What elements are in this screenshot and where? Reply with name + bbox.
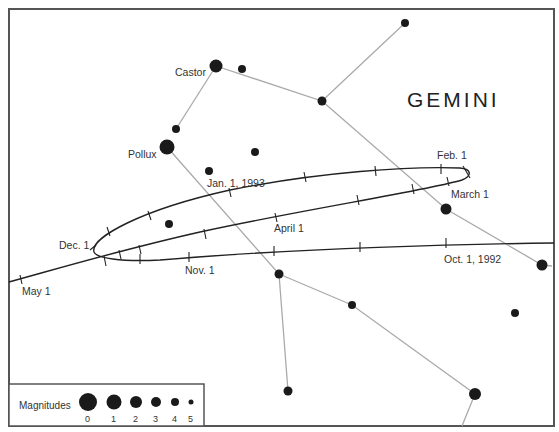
- star: [251, 148, 259, 156]
- star: [275, 270, 284, 279]
- magnitude-legend: Magnitudes 0 1 2 3 4 5: [9, 384, 204, 426]
- star: [284, 387, 293, 396]
- star: [401, 19, 409, 27]
- star: [537, 260, 548, 271]
- star: [318, 97, 327, 106]
- date-label-jan: Jan. 1, 1993: [207, 177, 265, 189]
- legend-dot-5: [189, 400, 194, 405]
- chart-frame: [9, 9, 554, 426]
- legend-dot-2: [130, 396, 142, 408]
- star: [469, 388, 481, 400]
- star: [205, 167, 213, 175]
- stars: [160, 19, 548, 400]
- castor-label: Castor: [175, 66, 206, 78]
- date-label-april: April 1: [274, 222, 304, 234]
- date-label-feb: Feb. 1: [437, 149, 467, 161]
- star-castor: [210, 60, 223, 73]
- date-label-nov: Nov. 1: [185, 264, 215, 276]
- constellation-title: GEMINI: [407, 88, 500, 111]
- date-label-oct: Oct. 1, 1992: [444, 253, 501, 265]
- date-label-may: May 1: [22, 285, 51, 297]
- star-pollux: [160, 140, 175, 155]
- star: [348, 301, 356, 309]
- star: [172, 125, 180, 133]
- legend-dot-3: [151, 397, 161, 407]
- legend-dot-4: [171, 398, 179, 406]
- constellation-lines: [167, 23, 552, 426]
- legend-value: 0: [85, 414, 90, 424]
- star: [441, 204, 452, 215]
- star: [238, 65, 246, 73]
- legend-value: 3: [153, 414, 158, 424]
- legend-title: Magnitudes: [19, 400, 71, 411]
- star: [511, 309, 519, 317]
- legend-value: 2: [133, 414, 138, 424]
- legend-dot-1: [107, 395, 122, 410]
- legend-value: 4: [172, 414, 177, 424]
- date-label-march: March 1: [451, 188, 489, 200]
- date-label-dec: Dec. 1: [59, 239, 90, 251]
- pollux-label: Pollux: [128, 148, 157, 160]
- gemini-star-chart: GEMINI Castor Pollux Jan. 1, 1993 Feb. 1…: [0, 0, 559, 432]
- legend-value: 1: [111, 414, 116, 424]
- star: [165, 220, 173, 228]
- legend-dot-0: [79, 393, 97, 411]
- legend-value: 5: [188, 414, 193, 424]
